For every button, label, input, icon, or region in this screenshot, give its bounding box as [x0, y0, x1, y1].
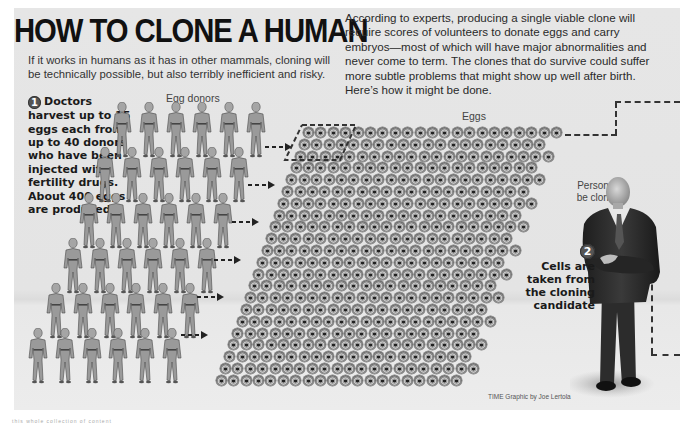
connector-line-top: [565, 134, 617, 136]
graphic-credit: TIME Graphic by Joe Lertola: [488, 393, 571, 400]
step-2-text: Cells are taken from the cloning candida…: [525, 260, 595, 312]
connector-line-vertical: [615, 102, 617, 135]
footer-caption: this whole collection of content: [12, 418, 112, 424]
step-2-caption: 2 Cells are taken from the cloning candi…: [515, 244, 595, 312]
step-number-badge: 2: [580, 244, 595, 259]
connector-line-top-right: [615, 101, 680, 103]
